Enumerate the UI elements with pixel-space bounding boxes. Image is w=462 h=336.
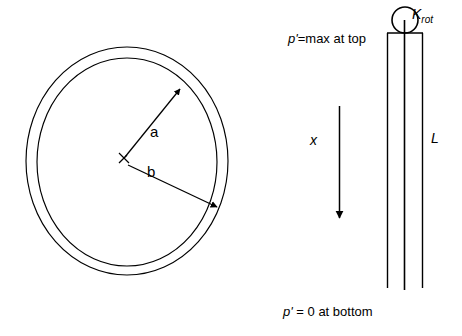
inner-circle	[37, 58, 217, 266]
bottom-condition-variable: p'	[283, 304, 293, 319]
spring-label-subscript: rot	[421, 14, 433, 25]
rod-group	[340, 7, 424, 290]
top-condition-text: =max at top	[298, 31, 366, 46]
top-condition-variable: p'	[288, 31, 298, 46]
rod-length-label: L	[431, 131, 439, 145]
bottom-boundary-condition-label: p' = 0 at bottom	[283, 305, 373, 318]
spring-label-base: K	[412, 6, 421, 22]
radius-b-arrow	[128, 165, 217, 207]
radius-b-label: b	[147, 164, 155, 179]
annulus-group	[26, 47, 228, 275]
rotational-spring-label: Krot	[412, 7, 433, 25]
bottom-condition-text: = 0 at bottom	[293, 304, 373, 319]
x-axis-label: x	[310, 133, 317, 147]
radius-a-label: a	[150, 124, 158, 139]
diagram-canvas	[0, 0, 462, 336]
figure-container: a b Krot p'=max at top x L p' = 0 at bot…	[0, 0, 462, 336]
top-boundary-condition-label: p'=max at top	[288, 32, 366, 45]
